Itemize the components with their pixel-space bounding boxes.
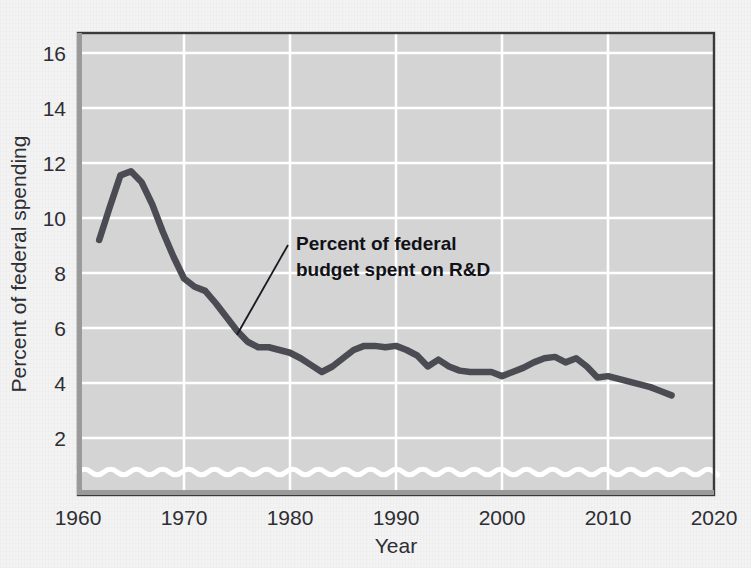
x-tick-label: 1970 bbox=[161, 506, 208, 529]
annotation-label-line1: Percent of federal bbox=[296, 233, 457, 254]
x-tick-label: 2000 bbox=[479, 506, 526, 529]
y-tick-label: 2 bbox=[54, 427, 66, 450]
y-tick-label: 14 bbox=[43, 97, 67, 120]
annotation-label-line2: budget spent on R&D bbox=[296, 259, 490, 280]
y-tick-label: 8 bbox=[54, 262, 66, 285]
y-tick-label: 4 bbox=[54, 372, 66, 395]
y-axis-title: Percent of federal spending bbox=[7, 136, 30, 393]
x-tick-label: 2010 bbox=[585, 506, 632, 529]
x-tick-label: 1990 bbox=[373, 506, 420, 529]
y-tick-label: 16 bbox=[43, 42, 66, 65]
x-tick-label: 1980 bbox=[267, 506, 314, 529]
x-axis-tick-labels: 1960197019801990200020102020 bbox=[55, 506, 738, 529]
y-tick-label: 12 bbox=[43, 152, 66, 175]
x-tick-label: 1960 bbox=[55, 506, 102, 529]
x-axis-title: Year bbox=[375, 534, 417, 557]
y-tick-label: 6 bbox=[54, 317, 66, 340]
y-axis-tick-labels: 246810121416 bbox=[43, 42, 67, 450]
line-chart: 246810121416 196019701980199020002010202… bbox=[0, 0, 751, 568]
x-tick-label: 2020 bbox=[691, 506, 738, 529]
y-tick-label: 10 bbox=[43, 207, 66, 230]
chart-figure: 246810121416 196019701980199020002010202… bbox=[0, 0, 751, 568]
